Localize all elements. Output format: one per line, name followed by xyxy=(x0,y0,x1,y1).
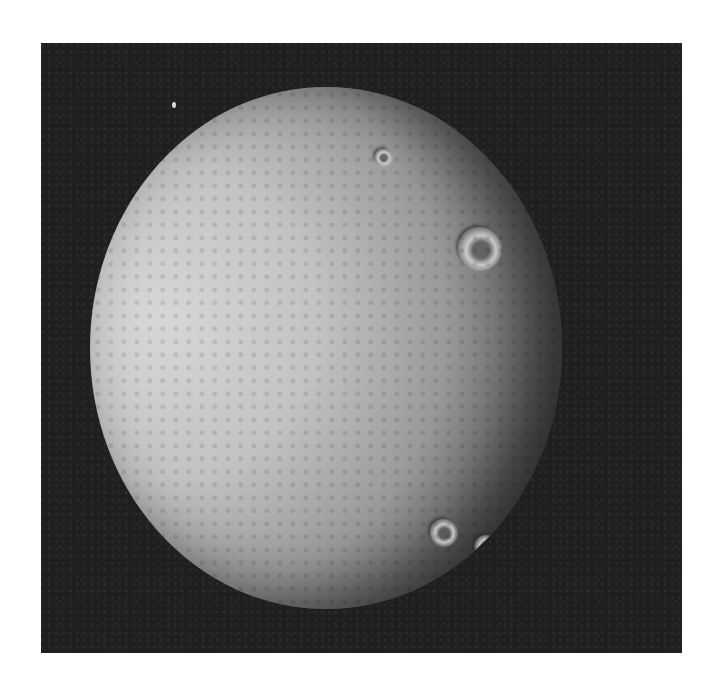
crater-south-1 xyxy=(430,519,456,545)
crater-east xyxy=(532,477,562,507)
crater-south-3 xyxy=(503,544,537,576)
photo-frame xyxy=(41,43,682,653)
crater-large-north xyxy=(458,227,500,269)
crater-north-small xyxy=(375,149,391,165)
star-dot xyxy=(172,102,176,108)
moon xyxy=(90,87,562,609)
crater-south-2 xyxy=(474,535,498,557)
